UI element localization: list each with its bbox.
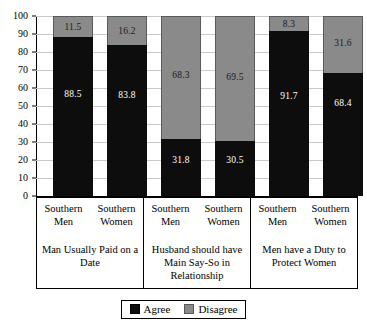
bar-segment-disagree[interactable]: 8.3 bbox=[269, 16, 309, 31]
category-label-text: Southern Men bbox=[251, 202, 304, 228]
bar-segment-disagree[interactable]: 69.5 bbox=[215, 16, 255, 141]
bar-value-disagree: 69.5 bbox=[216, 72, 254, 82]
stacked-bar-chart: 100 90 80 70 60 50 40 30 20 10 0 bbox=[0, 0, 367, 326]
question-text: Man Usually Paid on a Date bbox=[41, 243, 139, 269]
category-group-3-series-row: Southern Men Southern Women bbox=[251, 198, 357, 238]
bar-value-agree: 68.4 bbox=[324, 98, 362, 108]
legend: Agree Disagree bbox=[0, 300, 367, 319]
bar-segment-agree[interactable]: 88.5 bbox=[53, 37, 93, 196]
bar-segment-disagree[interactable]: 68.3 bbox=[161, 16, 201, 139]
question-text: Men have a Duty to Protect Women bbox=[255, 243, 353, 269]
bar-value-disagree: 68.3 bbox=[162, 70, 200, 80]
bar-segment-agree[interactable]: 31.8 bbox=[161, 139, 201, 196]
legend-item-agree[interactable]: Agree bbox=[130, 303, 171, 315]
y-tick-50: 50 bbox=[18, 101, 28, 111]
bar-segment-agree[interactable]: 91.7 bbox=[269, 31, 309, 196]
bar-value-agree: 31.8 bbox=[162, 155, 200, 165]
category-label-southern-men: Southern Men bbox=[251, 198, 304, 238]
category-label-southern-women: Southern Women bbox=[197, 198, 250, 238]
y-tick-20: 20 bbox=[18, 155, 28, 165]
bar-value-disagree: 16.2 bbox=[108, 26, 146, 36]
bar-segment-agree[interactable]: 68.4 bbox=[323, 73, 363, 196]
legend-label-agree: Agree bbox=[144, 303, 171, 315]
legend-item-disagree[interactable]: Disagree bbox=[184, 303, 237, 315]
bar-group3-southern-men[interactable]: 8.3 91.7 bbox=[269, 16, 309, 196]
category-group-2-series-row: Southern Men Southern Women bbox=[144, 198, 250, 238]
y-tick-0: 0 bbox=[23, 191, 28, 201]
category-group-2: Southern Men Southern Women Husband shou… bbox=[143, 198, 250, 288]
category-label-southern-women: Southern Women bbox=[304, 198, 357, 238]
y-axis: 100 90 80 70 60 50 40 30 20 10 0 bbox=[0, 16, 32, 196]
bar-segment-disagree[interactable]: 31.6 bbox=[323, 16, 363, 73]
category-group-3-question: Men have a Duty to Protect Women bbox=[251, 238, 357, 288]
y-tick-70: 70 bbox=[18, 65, 28, 75]
bar-group2-southern-women[interactable]: 69.5 30.5 bbox=[215, 16, 255, 196]
category-group-3: Southern Men Southern Women Men have a D… bbox=[250, 198, 357, 288]
category-group-1-question: Man Usually Paid on a Date bbox=[37, 238, 143, 288]
y-tick-90: 90 bbox=[18, 29, 28, 39]
category-label-southern-men: Southern Men bbox=[37, 198, 90, 238]
y-tick-30: 30 bbox=[18, 137, 28, 147]
category-group-2-question: Husband should have Main Say-So in Relat… bbox=[144, 238, 250, 288]
bar-value-agree: 91.7 bbox=[270, 91, 308, 101]
bar-value-disagree: 8.3 bbox=[270, 19, 308, 29]
bar-group1-southern-women[interactable]: 16.2 83.8 bbox=[107, 16, 147, 196]
bar-value-disagree: 11.5 bbox=[54, 22, 92, 32]
question-text: Husband should have Main Say-So in Relat… bbox=[148, 243, 246, 282]
category-label-text: Southern Men bbox=[144, 202, 197, 228]
legend-swatch-disagree-icon bbox=[184, 304, 194, 314]
y-tick-100: 100 bbox=[13, 11, 28, 21]
category-group-1: Southern Men Southern Women Man Usually … bbox=[37, 198, 143, 288]
bar-segment-agree[interactable]: 83.8 bbox=[107, 45, 147, 196]
y-tick-40: 40 bbox=[18, 119, 28, 129]
category-label-table: Southern Men Southern Women Man Usually … bbox=[36, 197, 358, 289]
legend-swatch-agree-icon bbox=[130, 304, 140, 314]
legend-label-disagree: Disagree bbox=[198, 303, 237, 315]
category-label-text: Southern Women bbox=[304, 202, 357, 228]
bar-segment-disagree[interactable]: 11.5 bbox=[53, 16, 93, 37]
bar-value-agree: 30.5 bbox=[216, 155, 254, 165]
y-tick-10: 10 bbox=[18, 173, 28, 183]
y-tick-60: 60 bbox=[18, 83, 28, 93]
category-label-southern-men: Southern Men bbox=[144, 198, 197, 238]
bar-group2-southern-men[interactable]: 68.3 31.8 bbox=[161, 16, 201, 196]
bar-group3-southern-women[interactable]: 31.6 68.4 bbox=[323, 16, 363, 196]
category-label-text: Southern Women bbox=[90, 202, 143, 228]
bar-segment-disagree[interactable]: 16.2 bbox=[107, 16, 147, 45]
bar-value-disagree: 31.6 bbox=[324, 38, 362, 48]
plot-area: 11.5 88.5 16.2 83.8 68.3 31.8 bbox=[36, 16, 358, 196]
category-label-southern-women: Southern Women bbox=[90, 198, 143, 238]
legend-box: Agree Disagree bbox=[121, 300, 247, 319]
bar-group1-southern-men[interactable]: 11.5 88.5 bbox=[53, 16, 93, 196]
bar-value-agree: 83.8 bbox=[108, 90, 146, 100]
category-label-text: Southern Men bbox=[37, 202, 90, 228]
category-label-text: Southern Women bbox=[197, 202, 250, 228]
y-tick-80: 80 bbox=[18, 47, 28, 57]
category-group-1-series-row: Southern Men Southern Women bbox=[37, 198, 143, 238]
bar-value-agree: 88.5 bbox=[54, 89, 92, 99]
bar-segment-agree[interactable]: 30.5 bbox=[215, 141, 255, 196]
